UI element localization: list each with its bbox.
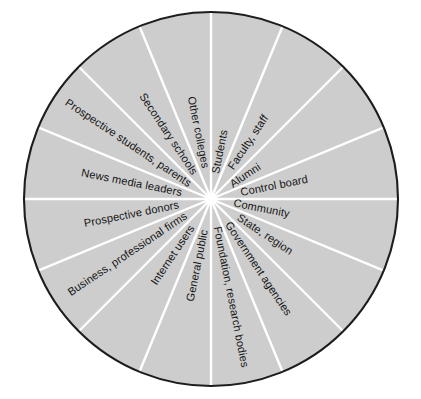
stakeholder-wheel-figure: StudentsFaculty, staffAlumniControl boar… — [0, 0, 421, 399]
stakeholder-wheel-diagram: StudentsFaculty, staffAlumniControl boar… — [0, 0, 421, 399]
spoke-lines-group — [24, 12, 398, 386]
wheel-body — [24, 12, 398, 386]
